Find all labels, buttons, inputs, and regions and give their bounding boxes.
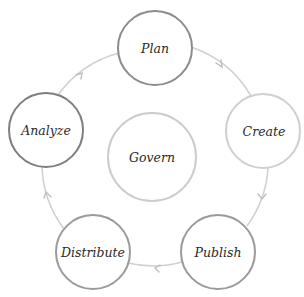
node-publish: Publish — [181, 215, 255, 289]
node-analyze: Analyze — [9, 93, 83, 167]
node-label-plan: Plan — [140, 41, 169, 56]
cycle-diagram: Govern Plan Create Publish Distribute An… — [0, 0, 304, 297]
node-distribute: Distribute — [56, 215, 130, 289]
arc-distribute-to-analyze — [42, 166, 64, 229]
arc-publish-to-distribute — [128, 262, 182, 266]
node-label-create: Create — [243, 124, 286, 139]
arc-analyze-to-plan — [58, 53, 119, 95]
node-label-distribute: Distribute — [60, 245, 125, 260]
node-create: Create — [226, 94, 300, 168]
node-label-analyze: Analyze — [20, 123, 71, 138]
node-govern: Govern — [108, 113, 196, 201]
arc-plan-to-create — [191, 47, 251, 96]
arc-create-to-publish — [247, 168, 268, 226]
node-label-govern: Govern — [129, 150, 175, 165]
node-label-publish: Publish — [194, 245, 242, 260]
node-plan: Plan — [118, 11, 192, 85]
